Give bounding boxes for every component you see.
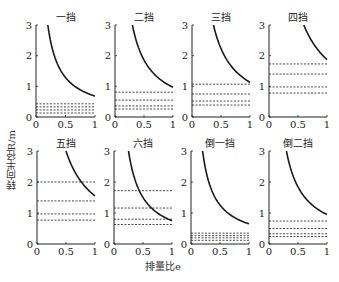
radius-curve: [132, 25, 173, 87]
y-tick-label: 3: [105, 20, 111, 31]
subplot-title: 一挡: [56, 11, 76, 23]
x-tick-label: 1: [170, 119, 176, 130]
subplot-1: 012300.51一挡: [26, 11, 99, 130]
radius-curve: [286, 151, 327, 215]
subplot-8: 012300.51倒二挡: [259, 137, 331, 257]
subplot-2: 012300.51二挡: [105, 11, 177, 130]
x-tick-label: 0.5: [213, 119, 229, 130]
subplot-5: 012300.51五挡: [27, 137, 99, 257]
subplot-title: 二挡: [134, 11, 154, 23]
subplot-title: 倒二挡: [283, 137, 313, 149]
y-tick-label: 2: [105, 50, 111, 61]
y-tick-label: 2: [104, 177, 110, 188]
y-tick-label: 0: [182, 112, 188, 123]
x-axis-label: 排量比e: [145, 258, 181, 273]
y-tick-label: 3: [26, 20, 32, 31]
y-tick-label: 0: [259, 112, 265, 123]
y-tick-label: 1: [259, 81, 265, 92]
y-tick-label: 1: [104, 208, 110, 219]
x-tick-label: 0.5: [58, 246, 74, 257]
x-tick-label: 0.5: [136, 119, 152, 130]
x-tick-label: 0.5: [135, 246, 151, 257]
y-tick-label: 0: [27, 239, 33, 250]
x-tick-label: 0.5: [58, 119, 74, 130]
x-tick-label: 0.5: [290, 246, 306, 257]
x-tick-label: 0: [33, 119, 39, 130]
y-tick-label: 1: [182, 81, 188, 92]
subplot-title: 四挡: [288, 11, 308, 23]
subplot-3: 012300.51三挡: [182, 11, 254, 130]
y-tick-label: 0: [104, 239, 110, 250]
x-tick-label: 0: [266, 119, 272, 130]
y-tick-label: 0: [259, 239, 265, 250]
subplot-7: 012300.51倒一挡: [181, 137, 253, 257]
subplot-4: 012300.51四挡: [259, 11, 331, 130]
radius-curve: [129, 151, 173, 221]
subplot-title: 五挡: [56, 137, 76, 149]
x-tick-label: 0: [34, 246, 40, 257]
x-tick-label: 0: [188, 246, 194, 257]
y-tick-label: 1: [27, 208, 33, 219]
x-tick-label: 1: [169, 246, 175, 257]
x-tick-label: 1: [247, 119, 253, 130]
radius-curve: [48, 25, 95, 96]
radius-curve: [304, 25, 327, 60]
subplot-title: 三挡: [211, 11, 231, 23]
y-tick-label: 3: [181, 146, 187, 157]
y-tick-label: 2: [259, 177, 265, 188]
y-tick-label: 1: [181, 208, 187, 219]
y-tick-label: 0: [105, 112, 111, 123]
y-tick-label: 3: [182, 20, 188, 31]
subplot-title: 倒一挡: [205, 137, 235, 149]
y-tick-label: 3: [259, 20, 265, 31]
subplot-grid: 012300.51一挡012300.51二挡012300.51三挡012300.…: [0, 0, 339, 282]
radius-curve: [203, 151, 249, 224]
x-tick-label: 0: [112, 119, 118, 130]
x-tick-label: 0.5: [212, 246, 228, 257]
subplot-title: 六挡: [133, 137, 153, 149]
y-tick-label: 2: [182, 50, 188, 61]
radius-curve: [66, 151, 95, 196]
x-tick-label: 0: [189, 119, 195, 130]
x-tick-label: 1: [92, 246, 98, 257]
x-tick-label: 0.5: [290, 119, 306, 130]
y-tick-label: 0: [181, 239, 187, 250]
y-tick-label: 0: [26, 112, 32, 123]
y-tick-label: 2: [181, 177, 187, 188]
y-tick-label: 1: [259, 208, 265, 219]
x-tick-label: 0: [266, 246, 272, 257]
subplot-6: 012300.51六挡: [104, 137, 176, 257]
y-tick-label: 3: [259, 146, 265, 157]
figure: 012300.51一挡012300.51二挡012300.51三挡012300.…: [0, 0, 339, 282]
x-tick-label: 1: [324, 246, 330, 257]
x-tick-label: 1: [324, 119, 330, 130]
y-tick-label: 2: [259, 50, 265, 61]
y-tick-label: 1: [105, 81, 111, 92]
y-tick-label: 2: [27, 177, 33, 188]
y-axis-label: 转向半径R/m: [4, 130, 20, 190]
y-tick-label: 3: [27, 146, 33, 157]
radius-curve: [213, 25, 250, 82]
x-tick-label: 0: [111, 246, 117, 257]
y-tick-label: 2: [26, 50, 32, 61]
y-tick-label: 1: [26, 81, 32, 92]
x-tick-label: 1: [92, 119, 98, 130]
y-tick-label: 3: [104, 146, 110, 157]
x-tick-label: 1: [246, 246, 252, 257]
